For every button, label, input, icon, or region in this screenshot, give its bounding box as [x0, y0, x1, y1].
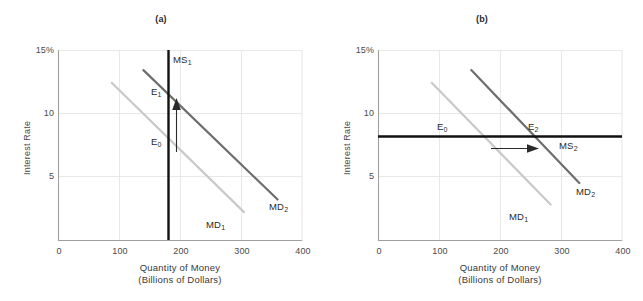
panel-b-ytick-15: 15%: [338, 45, 374, 55]
money-market-figure: (a): [0, 0, 643, 301]
panel-a-label-ms1: MS1: [173, 54, 192, 65]
panel-a-xtick-100: 100: [105, 246, 135, 256]
panel-b-label-e2-text: E: [528, 121, 535, 132]
panel-a-x-axis-label-line1: Quantity of Money: [58, 262, 302, 274]
panel-b-label-ms2: MS2: [559, 140, 578, 151]
panel-a-label-md2-text: MD: [269, 201, 284, 212]
panel-b-label-ms2-text: MS: [559, 140, 574, 151]
panel-b-label-md2-sub: 2: [591, 191, 595, 198]
panel-a-xtick-200: 200: [166, 246, 196, 256]
panel-b-xtick-400: 400: [608, 246, 638, 256]
panel-a-ytick-15: 15%: [18, 45, 54, 55]
panel-a-label-md2: MD2: [269, 201, 288, 212]
panel-b: (b): [321, 0, 643, 301]
panel-a: (a): [0, 0, 322, 301]
panel-a-gridlines: [58, 50, 302, 240]
panel-a-xtick-300: 300: [227, 246, 257, 256]
panel-b-xtick-0: 0: [364, 246, 394, 256]
panel-b-label-e0-text: E: [437, 121, 444, 132]
panel-a-xtick-400: 400: [288, 246, 318, 256]
panel-b-label-e2: E2: [528, 121, 539, 132]
panel-b-ytick-5: 5: [338, 171, 374, 181]
panel-a-label-e0-sub: 0: [158, 141, 162, 148]
panel-b-label-md1-sub: 1: [524, 216, 528, 223]
panel-a-label-e0: E0: [151, 136, 162, 147]
panel-a-y-axis-label: Interest Rate: [22, 121, 32, 175]
panel-b-xtick-300: 300: [547, 246, 577, 256]
panel-a-label-ms1-sub: 1: [188, 59, 192, 66]
panel-a-ytick-5: 5: [18, 171, 54, 181]
panel-a-label-md1-sub: 1: [221, 224, 225, 231]
panel-a-label-md1-text: MD: [206, 219, 221, 230]
panel-b-label-md2-text: MD: [576, 186, 591, 197]
panel-a-label-md1: MD1: [206, 219, 225, 230]
panel-b-xtick-100: 100: [425, 246, 455, 256]
panel-b-y-axis-label: Interest Rate: [342, 121, 352, 175]
panel-a-x-axis-label-line2: (Billions of Dollars): [58, 274, 302, 286]
panel-b-label-e2-sub: 2: [535, 126, 539, 133]
panel-b-label-ms2-sub: 2: [574, 145, 578, 152]
panel-b-label-md1: MD1: [509, 211, 528, 222]
panel-b-label-md2: MD2: [576, 186, 595, 197]
panel-b-label-e0: E0: [437, 121, 448, 132]
panel-b-label-e0-sub: 0: [444, 126, 448, 133]
panel-a-label-e1-sub: 1: [158, 91, 162, 98]
panel-a-label-e1-text: E: [151, 86, 158, 97]
panel-b-xtick-200: 200: [486, 246, 516, 256]
panel-a-label-e0-text: E: [151, 136, 158, 147]
panel-b-x-axis-label-line1: Quantity of Money: [378, 262, 622, 274]
panel-a-label-md2-sub: 2: [284, 206, 288, 213]
panel-a-label-e1: E1: [151, 86, 162, 97]
panel-b-ytick-10: 10: [338, 108, 374, 118]
curve-md1: [432, 83, 551, 205]
curve-md2: [471, 70, 579, 183]
panel-b-x-axis-label-line2: (Billions of Dollars): [378, 274, 622, 286]
panel-b-gridlines: [378, 50, 622, 240]
panel-a-xtick-0: 0: [44, 246, 74, 256]
panel-b-label-md1-text: MD: [509, 211, 524, 222]
panel-a-label-ms1-text: MS: [173, 54, 188, 65]
panel-a-ytick-10: 10: [18, 108, 54, 118]
